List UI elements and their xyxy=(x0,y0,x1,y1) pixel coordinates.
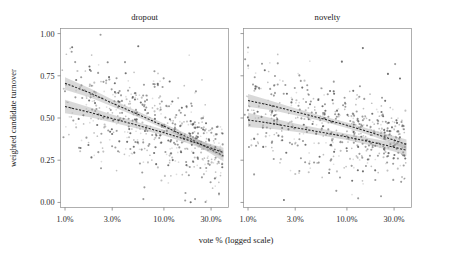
data-point xyxy=(69,48,71,50)
data-point xyxy=(353,121,355,123)
data-point xyxy=(254,88,256,90)
data-point xyxy=(247,52,249,54)
data-point xyxy=(175,160,177,162)
data-point xyxy=(114,91,116,93)
data-point xyxy=(201,176,203,178)
data-point xyxy=(396,122,398,124)
data-point xyxy=(365,136,367,138)
data-point xyxy=(277,54,279,56)
data-point xyxy=(381,128,383,130)
data-point xyxy=(357,169,359,171)
data-point xyxy=(294,87,296,89)
data-point xyxy=(157,84,159,86)
data-point xyxy=(306,84,308,86)
data-point xyxy=(134,141,136,143)
data-point xyxy=(181,107,183,109)
data-point xyxy=(210,132,212,134)
data-point xyxy=(197,132,199,134)
data-point xyxy=(393,128,395,130)
data-point xyxy=(213,140,215,142)
data-point xyxy=(211,161,213,163)
data-point xyxy=(271,142,273,144)
data-point xyxy=(300,157,302,159)
data-point xyxy=(139,148,141,150)
data-point xyxy=(359,159,361,161)
data-point xyxy=(203,173,205,175)
data-point xyxy=(298,138,300,140)
data-point xyxy=(186,121,188,123)
data-point xyxy=(269,88,271,90)
data-point xyxy=(358,96,360,98)
data-point xyxy=(255,72,257,74)
data-point xyxy=(194,198,196,200)
data-point xyxy=(221,132,223,134)
data-point xyxy=(114,96,116,98)
x-tick-label: 10.0% xyxy=(336,215,357,224)
data-point xyxy=(253,90,255,92)
data-point xyxy=(361,157,363,159)
data-point xyxy=(321,105,323,107)
data-point xyxy=(378,128,380,130)
data-point xyxy=(90,156,92,158)
data-point xyxy=(197,126,199,128)
data-point xyxy=(188,132,190,134)
data-point xyxy=(295,102,297,104)
data-point xyxy=(141,172,143,174)
data-point xyxy=(137,139,139,141)
data-point xyxy=(141,121,143,123)
data-point xyxy=(289,142,291,144)
data-point xyxy=(253,109,255,111)
data-point xyxy=(105,79,107,81)
data-point xyxy=(100,81,102,83)
data-point xyxy=(81,97,83,99)
data-point xyxy=(85,137,87,139)
facet-dropout: dropout1.0%3.0%10.0%30.0%0.000.250.500.7… xyxy=(40,12,228,224)
data-point xyxy=(366,124,368,126)
data-point xyxy=(121,112,123,114)
data-point xyxy=(346,150,348,152)
data-point xyxy=(308,163,310,165)
data-point xyxy=(159,80,161,82)
data-point xyxy=(134,92,136,94)
data-point xyxy=(192,123,194,125)
data-point xyxy=(169,140,171,142)
data-point xyxy=(283,93,285,95)
data-point xyxy=(199,167,201,169)
data-point xyxy=(216,133,218,135)
data-point xyxy=(62,136,64,138)
data-point xyxy=(321,177,323,179)
data-point xyxy=(309,160,311,162)
data-point xyxy=(298,172,300,174)
data-point xyxy=(247,46,249,48)
data-point xyxy=(388,152,390,154)
data-point xyxy=(262,146,264,148)
data-point xyxy=(301,87,303,89)
data-point xyxy=(185,171,187,173)
data-point xyxy=(393,154,395,156)
data-point xyxy=(178,109,180,111)
data-point xyxy=(148,143,150,145)
data-point xyxy=(154,114,156,116)
data-point xyxy=(279,79,281,81)
data-point xyxy=(221,166,223,168)
data-point xyxy=(384,151,386,153)
data-point xyxy=(146,112,148,114)
data-point xyxy=(252,84,254,86)
data-point xyxy=(207,157,209,159)
data-point xyxy=(327,93,329,95)
data-point xyxy=(160,106,162,108)
data-point xyxy=(334,113,336,115)
data-point xyxy=(207,156,209,158)
data-point xyxy=(190,111,192,113)
data-point xyxy=(78,118,80,120)
data-point xyxy=(382,121,384,123)
data-point xyxy=(102,151,104,153)
data-point xyxy=(362,170,364,172)
x-tick-label: 10.0% xyxy=(153,215,174,224)
data-point xyxy=(378,153,380,155)
data-point xyxy=(269,62,271,64)
data-point xyxy=(214,177,216,179)
data-point xyxy=(211,127,213,129)
data-point xyxy=(214,138,216,140)
data-point xyxy=(377,155,379,157)
